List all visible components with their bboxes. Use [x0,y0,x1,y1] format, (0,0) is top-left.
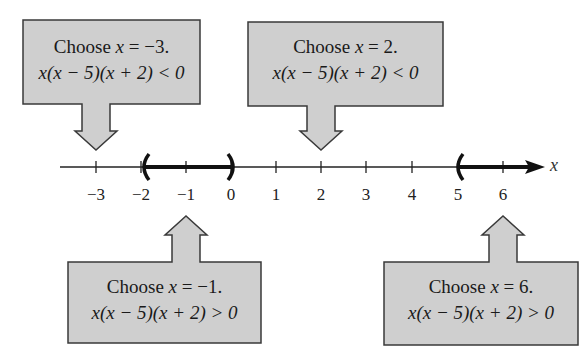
callout-text-test-2: Choose x = 2. x(x − 5)(x + 2) < 0 [248,34,443,86]
callout-line2: x(x − 5)(x + 2) > 0 [68,300,261,326]
callout-line1: Choose x = 6. [384,274,578,300]
tick-label: 4 [408,185,417,205]
callout-line1: Choose x = −3. [23,34,200,60]
callout-text-test-6: Choose x = 6. x(x − 5)(x + 2) > 0 [384,274,578,326]
callout-line1: Choose x = −1. [68,274,261,300]
tick-label: −2 [132,185,150,205]
interval-5-to-infinity [458,154,530,180]
number-line-diagram: −3 −2 −1 0 1 2 3 4 5 6 x Choose x = −3. … [0,0,586,361]
tick-label: 1 [272,185,281,205]
callout-text-test-neg1: Choose x = −1. x(x − 5)(x + 2) > 0 [68,274,261,326]
callout-text-test-neg3: Choose x = −3. x(x − 5)(x + 2) < 0 [23,34,200,86]
callout-line2: x(x − 5)(x + 2) < 0 [23,60,200,86]
callout-line2: x(x − 5)(x + 2) > 0 [384,300,578,326]
callout-line2: x(x − 5)(x + 2) < 0 [248,60,443,86]
axis-variable-label: x [550,155,558,176]
tick-label: −1 [177,185,195,205]
tick-label: −3 [87,185,105,205]
tick-label: 2 [317,185,326,205]
tick-label: 5 [454,185,463,205]
callout-line1: Choose x = 2. [248,34,443,60]
interval-neg2-to-0 [143,154,233,180]
tick-label: 6 [499,185,508,205]
tick-label: 3 [362,185,371,205]
tick-label: 0 [227,185,236,205]
